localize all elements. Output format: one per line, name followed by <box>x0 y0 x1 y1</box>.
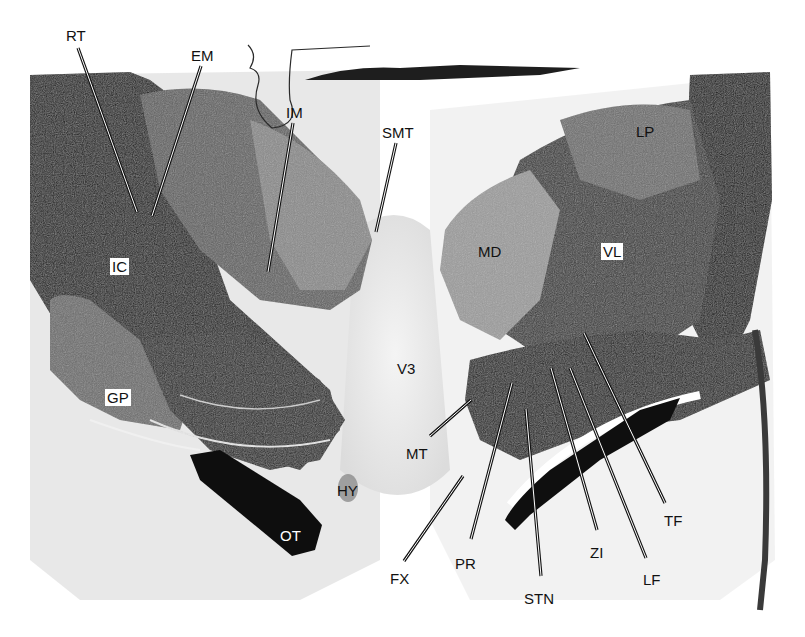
label-fx: FX <box>390 571 409 586</box>
label-mt: MT <box>406 446 428 461</box>
label-smt: SMT <box>382 125 414 140</box>
tissue-section-image <box>0 0 805 637</box>
label-v3: V3 <box>397 361 415 376</box>
label-vl: VL <box>601 243 623 260</box>
label-lp: LP <box>636 124 654 139</box>
label-ot: OT <box>280 528 301 543</box>
label-zi: ZI <box>590 545 603 560</box>
label-stn: STN <box>524 591 554 606</box>
top-membrane <box>305 65 580 80</box>
label-tf: TF <box>664 513 682 528</box>
label-gp: GP <box>105 389 131 406</box>
brain-section-figure: RTEMIMSMTLPMDVLICV3GPMTHYOTFXPRSTNZILFTF <box>0 0 805 637</box>
label-hy: HY <box>337 483 358 498</box>
label-em: EM <box>191 48 214 63</box>
label-pr: PR <box>455 556 476 571</box>
label-ic: IC <box>110 258 129 275</box>
label-md: MD <box>478 244 501 259</box>
label-im: IM <box>286 105 303 120</box>
label-lf: LF <box>643 572 661 587</box>
label-rt: RT <box>66 28 86 43</box>
